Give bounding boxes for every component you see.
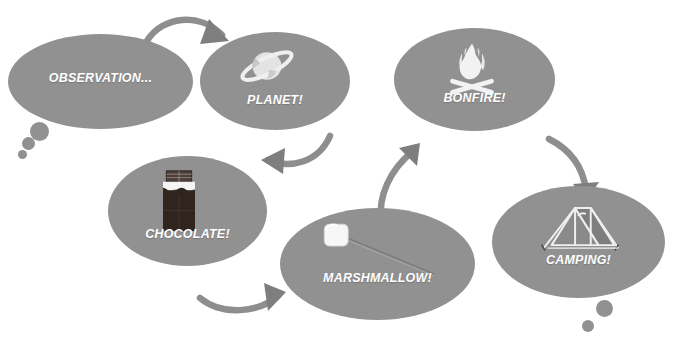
node-planet[interactable]: PLANET! — [200, 32, 350, 130]
tent-icon — [532, 202, 626, 253]
node-label-observation: OBSERVATION... — [15, 70, 185, 85]
node-marshmallow[interactable]: MARSHMALLOW! — [280, 208, 475, 320]
node-label-marshmallow: MARSHMALLOW! — [288, 270, 467, 285]
camping-thought-dot-small — [582, 320, 594, 332]
arrow-chocolate-to-marshmallow — [200, 283, 286, 311]
node-label-chocolate: CHOCOLATE! — [114, 226, 260, 241]
thought-dot-small — [18, 150, 27, 159]
node-label-bonfire: BONFIRE! — [400, 90, 548, 105]
diagram-canvas: OBSERVATION... PLANET! — [0, 0, 695, 350]
node-observation[interactable]: OBSERVATION... — [8, 34, 193, 129]
arrow-planet-to-chocolate — [261, 136, 330, 174]
node-chocolate[interactable]: CHOCOLATE! — [108, 156, 267, 266]
node-bonfire[interactable]: BONFIRE! — [394, 28, 555, 131]
thought-dot-medium — [22, 137, 35, 150]
chocolate-bar-icon — [157, 170, 201, 234]
saturn-planet-icon — [236, 40, 298, 94]
camping-thought-dot-large — [596, 300, 613, 317]
node-label-planet: PLANET! — [206, 92, 344, 107]
node-camping[interactable]: CAMPING! — [492, 186, 665, 298]
node-label-camping: CAMPING! — [499, 252, 658, 267]
